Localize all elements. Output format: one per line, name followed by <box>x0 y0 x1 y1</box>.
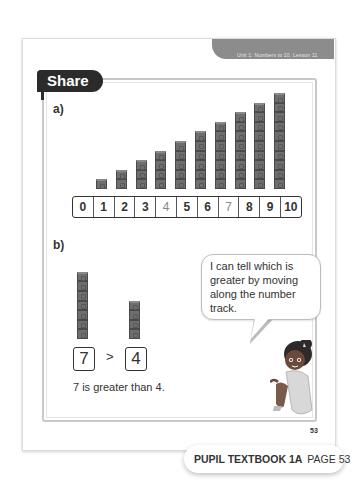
cube-icon <box>136 170 147 180</box>
cube-icon <box>155 170 166 180</box>
cube-icon <box>155 179 166 189</box>
cube-icon <box>215 131 226 141</box>
cube-icon <box>77 301 88 311</box>
cube-icon <box>235 151 246 161</box>
cube-icon <box>116 179 127 189</box>
cube-icon <box>155 151 166 161</box>
cube-icon <box>136 179 147 189</box>
cube-icon <box>254 103 265 113</box>
cube-icon <box>195 131 206 141</box>
cube-icon <box>215 122 226 132</box>
cube-icon <box>254 160 265 170</box>
cube-icon <box>195 170 206 180</box>
speech-bubble-text: I can tell which is greater by moving al… <box>210 259 322 315</box>
cube-icon <box>129 320 140 330</box>
cube-icon <box>274 103 285 113</box>
cube-icon <box>274 122 285 132</box>
cube-icon <box>274 160 285 170</box>
cube-icon <box>215 179 226 189</box>
cube-icon <box>77 320 88 330</box>
cube-icon <box>274 141 285 151</box>
number-track-cell: 8 <box>239 197 260 217</box>
cube-icon <box>155 160 166 170</box>
left-number-box: 7 <box>73 347 95 371</box>
cube-icon <box>235 131 246 141</box>
cube-icon <box>254 179 265 189</box>
number-track-cell: 9 <box>260 197 281 217</box>
number-track-cell: 5 <box>177 197 198 217</box>
number-track-cell: 4 <box>156 197 177 217</box>
cube-tower <box>77 272 88 339</box>
share-tab: Share <box>37 70 103 92</box>
cube-icon <box>235 160 246 170</box>
cube-tower <box>215 122 226 189</box>
number-track-cell: 0 <box>73 197 94 217</box>
right-number-box: 4 <box>125 347 147 371</box>
cube-icon <box>235 170 246 180</box>
cube-tower <box>254 103 265 189</box>
cube-icon <box>254 131 265 141</box>
number-track-cell: 6 <box>198 197 219 217</box>
cube-icon <box>129 310 140 320</box>
comparison-caption: 7 is greater than 4. <box>73 381 165 393</box>
cube-tower <box>175 141 186 189</box>
cube-tower <box>136 160 147 189</box>
part-b-label: b) <box>53 238 64 252</box>
cube-icon <box>195 151 206 161</box>
cube-tower <box>155 151 166 189</box>
cube-icon <box>235 122 246 132</box>
number-track-cell: 7 <box>219 197 240 217</box>
part-a-label: a) <box>53 102 64 116</box>
cube-icon <box>274 170 285 180</box>
cube-icon <box>129 329 140 339</box>
cube-icon <box>96 179 107 189</box>
cube-icon <box>77 281 88 291</box>
cube-icon <box>116 170 127 180</box>
cube-tower <box>195 131 206 189</box>
book-title: PUPIL TEXTBOOK 1A <box>194 453 302 465</box>
book-page: PAGE 53 <box>307 453 350 465</box>
cube-icon <box>175 179 186 189</box>
cube-icon <box>254 112 265 122</box>
cube-icon <box>274 112 285 122</box>
cube-icon <box>254 122 265 132</box>
cube-icon <box>235 179 246 189</box>
cube-icon <box>195 141 206 151</box>
cube-icon <box>175 141 186 151</box>
cube-icon <box>195 160 206 170</box>
cube-tower <box>274 93 285 189</box>
cube-icon <box>175 160 186 170</box>
unit-label: Unit 1: Numbers to 10, Lesson 11 <box>237 52 318 58</box>
cube-icon <box>254 170 265 180</box>
cube-tower <box>235 112 246 189</box>
cube-icon <box>136 160 147 170</box>
number-track-cell: 2 <box>115 197 136 217</box>
girl-character-icon <box>270 340 316 418</box>
cube-icon <box>235 141 246 151</box>
cube-icon <box>77 291 88 301</box>
number-track-cell: 3 <box>135 197 156 217</box>
cube-icon <box>215 141 226 151</box>
cube-icon <box>274 131 285 141</box>
footer-book-label: PUPIL TEXTBOOK 1A PAGE 53 <box>184 445 344 473</box>
cube-tower <box>96 179 107 189</box>
cube-icon <box>274 93 285 103</box>
cube-icon <box>215 151 226 161</box>
cube-tower <box>116 170 127 189</box>
cube-icon <box>77 310 88 320</box>
cube-icon <box>175 151 186 161</box>
number-track: 012345678910 <box>72 196 302 218</box>
cube-icon <box>77 329 88 339</box>
cube-icon <box>129 301 140 311</box>
cube-icon <box>274 151 285 161</box>
cube-icon <box>254 151 265 161</box>
cube-icon <box>175 170 186 180</box>
cube-icon <box>215 170 226 180</box>
cube-icon <box>254 141 265 151</box>
cube-icon <box>77 272 88 282</box>
cube-icon <box>235 112 246 122</box>
page-number: 53 <box>310 427 318 434</box>
cube-icon <box>195 179 206 189</box>
number-track-cell: 10 <box>281 197 301 217</box>
cube-icon <box>215 160 226 170</box>
